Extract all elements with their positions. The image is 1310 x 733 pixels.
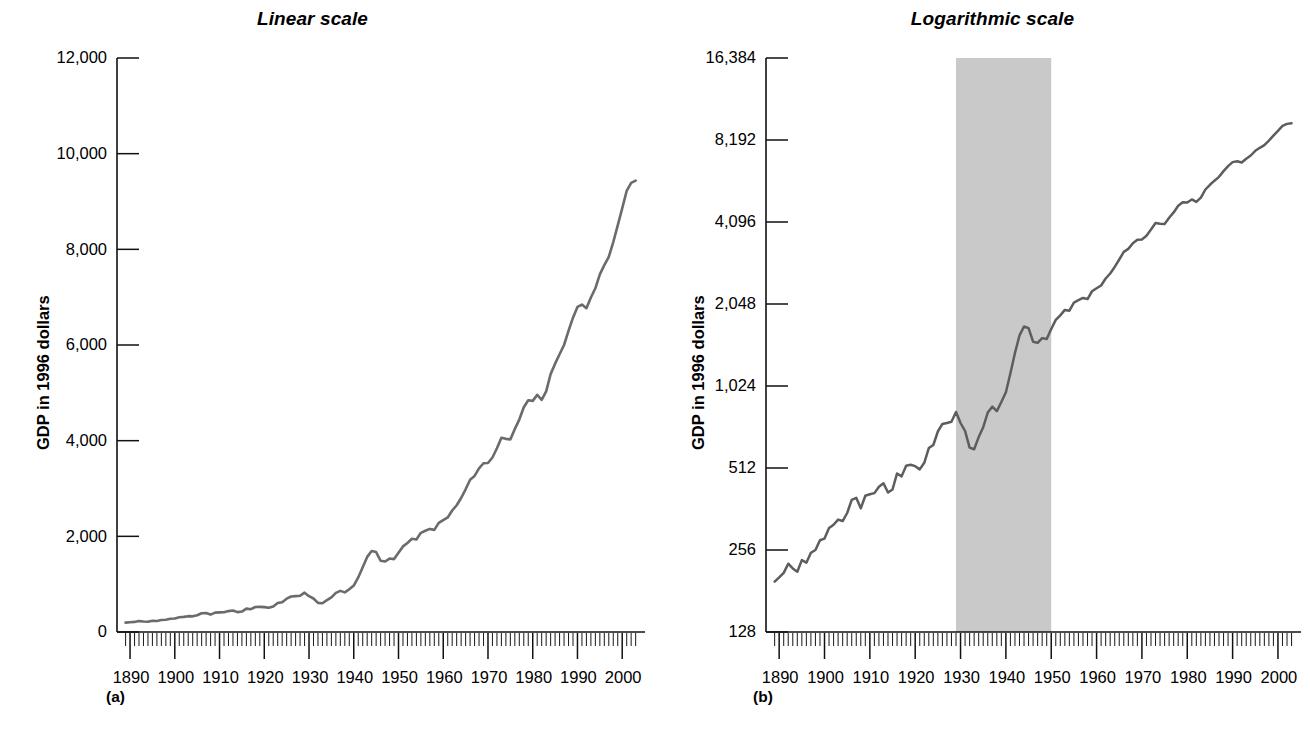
- x-tick-label: 1950: [381, 668, 418, 686]
- gdp-figure: Linear scale GDP in 1996 dollars (a) 02,…: [0, 0, 1310, 733]
- x-tick-label: 1970: [471, 668, 508, 686]
- linear-scale-plot: 02,0004,0006,0008,00010,00012,0001890190…: [0, 0, 655, 733]
- y-tick-label: 128: [728, 622, 756, 640]
- x-tick-label: 1890: [762, 668, 799, 686]
- x-tick-label: 1900: [807, 668, 844, 686]
- x-tick-label: 1930: [943, 668, 980, 686]
- y-tick-label: 512: [728, 458, 756, 476]
- x-tick-label: 1960: [426, 668, 463, 686]
- y-tick-label: 4,096: [715, 212, 756, 230]
- y-tick-label: 2,000: [66, 527, 107, 545]
- y-tick-label: 2,048: [715, 294, 756, 312]
- x-tick-label: 1950: [1034, 668, 1071, 686]
- y-tick-label: 1,024: [715, 376, 756, 394]
- log-scale-plot: 1282565121,0242,0484,0968,19216,38418901…: [655, 0, 1310, 733]
- panel-log-scale: Logarithmic scale GDP in 1996 dollars (b…: [655, 0, 1310, 733]
- x-tick-label: 2000: [1261, 668, 1298, 686]
- panel-linear-scale: Linear scale GDP in 1996 dollars (a) 02,…: [0, 0, 655, 733]
- x-tick-label: 1980: [1170, 668, 1207, 686]
- y-tick-label: 8,000: [66, 240, 107, 258]
- x-tick-label: 1940: [336, 668, 373, 686]
- gdp-series-line: [126, 181, 636, 623]
- x-tick-label: 1970: [1125, 668, 1162, 686]
- y-tick-label: 6,000: [66, 335, 107, 353]
- x-tick-label: 1960: [1079, 668, 1116, 686]
- x-tick-label: 1990: [1215, 668, 1252, 686]
- x-tick-label: 1980: [515, 668, 552, 686]
- x-tick-label: 1940: [989, 668, 1026, 686]
- x-tick-label: 1900: [157, 668, 194, 686]
- x-tick-label: 1910: [202, 668, 239, 686]
- x-tick-label: 2000: [605, 668, 642, 686]
- y-tick-label: 256: [728, 540, 756, 558]
- y-tick-label: 12,000: [57, 48, 107, 66]
- y-tick-label: 10,000: [57, 144, 107, 162]
- x-tick-label: 1910: [852, 668, 889, 686]
- y-tick-label: 4,000: [66, 431, 107, 449]
- y-tick-label: 16,384: [706, 48, 756, 66]
- y-tick-label: 8,192: [715, 130, 756, 148]
- x-tick-label: 1920: [247, 668, 284, 686]
- recession-shading: [956, 58, 1051, 632]
- x-tick-label: 1920: [898, 668, 935, 686]
- x-tick-label: 1930: [292, 668, 329, 686]
- x-tick-label: 1990: [560, 668, 597, 686]
- y-tick-label: 0: [98, 622, 107, 640]
- x-tick-label: 1890: [113, 668, 150, 686]
